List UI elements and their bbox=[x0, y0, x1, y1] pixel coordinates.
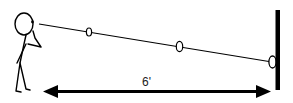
diagram: 6' bbox=[0, 0, 293, 103]
arrow-head-right-icon bbox=[256, 85, 271, 98]
figure-head bbox=[15, 13, 33, 35]
vertical-wall bbox=[276, 10, 281, 90]
figure-legs bbox=[16, 63, 30, 92]
figure-back-arm bbox=[17, 44, 26, 63]
double-headed-arrow bbox=[43, 85, 271, 98]
figure-arm bbox=[28, 31, 41, 47]
stick-figure bbox=[15, 13, 41, 92]
sight-line bbox=[39, 24, 272, 62]
ring-marker-1 bbox=[86, 28, 91, 36]
distance-label: 6' bbox=[142, 76, 151, 88]
arrow-head-left-icon bbox=[43, 85, 58, 98]
ring-marker-3 bbox=[269, 56, 276, 68]
figure-eye bbox=[31, 21, 34, 24]
ring-marker-2 bbox=[176, 41, 182, 51]
